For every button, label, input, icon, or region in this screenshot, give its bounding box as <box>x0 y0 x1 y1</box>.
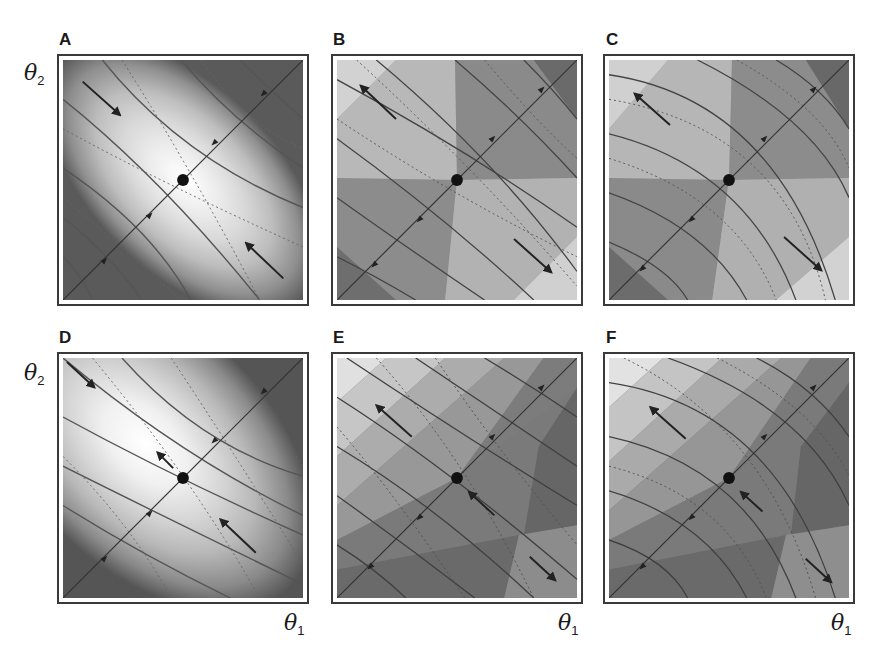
fixed-point-c <box>723 174 735 186</box>
flow-field-a <box>63 60 303 300</box>
x-axis-label-e: θ1 <box>558 610 578 638</box>
fixed-point-a <box>177 174 189 186</box>
y-axis-label-top: θ2 <box>24 60 44 88</box>
x-axis-label-f: θ1 <box>831 610 851 638</box>
panel-label-f: F <box>606 328 616 348</box>
flow-field-e <box>337 358 577 598</box>
panel-e <box>331 352 583 604</box>
fixed-point-b <box>451 174 463 186</box>
fixed-point-f <box>723 472 735 484</box>
panel-label-d: D <box>59 328 71 348</box>
flow-field-f <box>609 358 849 598</box>
panel-label-c: C <box>606 30 618 50</box>
panel-b <box>331 54 583 306</box>
flow-field-b <box>337 60 577 300</box>
panel-label-e: E <box>333 328 344 348</box>
panel-c <box>603 54 855 306</box>
fixed-point-d <box>177 472 189 484</box>
x-axis-label-d: θ1 <box>284 610 304 638</box>
flow-field-c <box>609 60 849 300</box>
panel-label-b: B <box>333 30 345 50</box>
y-axis-label-bottom: θ2 <box>24 360 44 388</box>
panel-a <box>57 54 309 306</box>
panel-d <box>57 352 309 604</box>
flow-field-d <box>63 358 303 598</box>
panel-label-a: A <box>59 30 71 50</box>
panel-f <box>603 352 855 604</box>
fixed-point-e <box>451 472 463 484</box>
